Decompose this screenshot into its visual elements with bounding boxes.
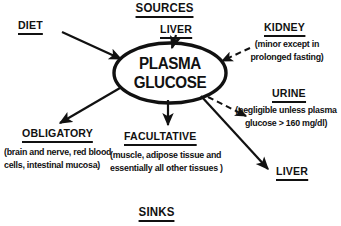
sources-heading: SOURCES <box>136 2 194 18</box>
plasma-glucose-diagram: SOURCES SINKS PLASMA GLUCOSE DIET LIVER … <box>0 0 341 226</box>
node-label-line1: PLASMA <box>118 54 223 73</box>
arrow-node-to-obligatory <box>60 88 120 123</box>
source-label-kidney: KIDNEY <box>264 22 305 37</box>
source-label-liver: LIVER <box>160 24 192 39</box>
plasma-glucose-node-label: PLASMA GLUCOSE <box>118 54 223 92</box>
sink-detail-facultative: (muscle, adipose tissue and essentially … <box>110 149 223 174</box>
arrow-diet-to-node <box>62 32 121 59</box>
sinks-heading: SINKS <box>139 206 175 222</box>
node-label-line2: GLUCOSE <box>118 73 223 92</box>
sink-detail-obligatory: (brain and nerve, red blood cells, intes… <box>4 146 113 171</box>
sink-detail-urine: (negligible unless plasma glucose > 160 … <box>234 104 337 129</box>
sink-label-urine: URINE <box>272 88 306 103</box>
sink-label-obligatory: OBLIGATORY <box>22 128 93 143</box>
sink-label-liver: LIVER <box>276 166 308 181</box>
source-detail-kidney: (minor except in prolonged fasting) <box>236 38 338 63</box>
source-label-diet: DIET <box>18 20 43 35</box>
sink-label-facultative: FACULTATIVE <box>124 131 197 146</box>
